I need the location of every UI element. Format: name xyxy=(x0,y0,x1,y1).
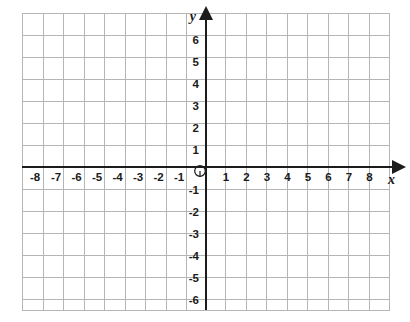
x-tick-label: -2 xyxy=(153,171,163,183)
x-tick-label: 5 xyxy=(305,171,312,183)
y-tick-label: -2 xyxy=(189,206,199,218)
x-tick-label: -6 xyxy=(71,171,81,183)
y-tick-label: 5 xyxy=(193,56,200,68)
y-tick-label: -6 xyxy=(189,294,199,306)
x-tick-label: -1 xyxy=(174,171,185,183)
x-tick-label: -4 xyxy=(112,171,123,183)
x-axis-label: x xyxy=(387,172,395,187)
y-tick-label: -5 xyxy=(189,272,200,284)
y-tick-label: 3 xyxy=(193,100,199,112)
x-tick-label: 1 xyxy=(223,171,230,183)
x-tick-label: 6 xyxy=(325,171,331,183)
y-tick-label: 1 xyxy=(193,144,200,156)
x-tick-label: -7 xyxy=(51,171,61,183)
x-tick-label: 3 xyxy=(264,171,270,183)
y-tick-label: 6 xyxy=(193,34,199,46)
y-tick-label: -4 xyxy=(189,250,200,262)
x-tick-label: -5 xyxy=(92,171,103,183)
x-tick-label: 7 xyxy=(346,171,352,183)
x-tick-label: -8 xyxy=(30,171,41,183)
coordinate-grid-svg: -8 -7 -6 -5 -4 -3 -2 -1 1 2 3 4 5 6 7 8 … xyxy=(0,0,410,322)
coordinate-plane: -8 -7 -6 -5 -4 -3 -2 -1 1 2 3 4 5 6 7 8 … xyxy=(0,0,410,322)
x-tick-label: 8 xyxy=(366,171,373,183)
y-tick-label: 2 xyxy=(193,122,199,134)
y-tick-label: 4 xyxy=(193,78,200,90)
x-tick-label: 4 xyxy=(284,171,291,183)
y-tick-label: -3 xyxy=(189,228,199,240)
y-axis-label: y xyxy=(188,9,197,24)
y-tick-label: -1 xyxy=(189,184,200,196)
x-tick-label: -3 xyxy=(133,171,143,183)
x-tick-label: 2 xyxy=(243,171,249,183)
